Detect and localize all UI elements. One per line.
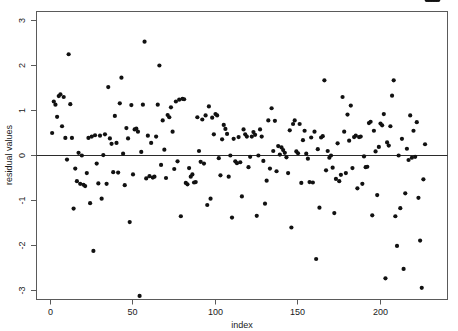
scatter-point bbox=[390, 94, 394, 98]
x-tick-label: 100 bbox=[208, 307, 223, 317]
scatter-point bbox=[53, 103, 57, 107]
scatter-point bbox=[400, 137, 404, 141]
scatter-point bbox=[106, 85, 110, 89]
scatter-point bbox=[85, 171, 89, 175]
scatter-point bbox=[265, 179, 269, 183]
scatter-point bbox=[383, 276, 387, 280]
scatter-point bbox=[139, 150, 143, 154]
scatter-point bbox=[359, 135, 363, 139]
scatter-point bbox=[129, 103, 133, 107]
scatter-point bbox=[190, 172, 194, 176]
scatter-point bbox=[159, 163, 163, 167]
scatter-point bbox=[207, 104, 211, 108]
scatter-point bbox=[121, 152, 125, 156]
scatter-point bbox=[232, 137, 236, 141]
scatter-point bbox=[101, 153, 105, 157]
scatter-point bbox=[138, 294, 142, 298]
scatter-point bbox=[266, 118, 270, 122]
scatter-point bbox=[126, 136, 130, 140]
scatter-point bbox=[416, 196, 420, 200]
scatter-point bbox=[118, 101, 122, 105]
scatter-point bbox=[76, 151, 80, 155]
scatter-point bbox=[103, 132, 107, 136]
scatter-point bbox=[60, 124, 64, 128]
scatter-point bbox=[372, 129, 376, 133]
scatter-point bbox=[377, 145, 381, 149]
scatter-point bbox=[347, 139, 351, 143]
scatter-point bbox=[161, 118, 165, 122]
scatter-point bbox=[317, 206, 321, 210]
x-tick-label: 50 bbox=[127, 307, 137, 317]
scatter-point bbox=[228, 153, 232, 157]
scatter-point bbox=[293, 118, 297, 122]
scatter-point bbox=[142, 40, 146, 44]
scatter-point bbox=[230, 216, 234, 220]
scatter-point bbox=[270, 106, 274, 110]
scatter-point bbox=[204, 113, 208, 117]
scatter-point bbox=[306, 157, 310, 161]
scatter-point bbox=[296, 151, 300, 155]
scatter-point bbox=[268, 166, 272, 170]
y-tick-label: -3 bbox=[17, 286, 27, 294]
scatter-point bbox=[421, 177, 425, 181]
scatter-point bbox=[164, 176, 168, 180]
scatter-point bbox=[299, 181, 303, 185]
scatter-point bbox=[73, 166, 77, 170]
scatter-point bbox=[172, 167, 176, 171]
scatter-point bbox=[218, 173, 222, 177]
scatter-point bbox=[67, 52, 71, 56]
scatter-point bbox=[339, 173, 343, 177]
scatter-point bbox=[58, 92, 62, 96]
scatter-point bbox=[345, 112, 349, 116]
scatter-point bbox=[98, 134, 102, 138]
x-tick-label: 150 bbox=[290, 307, 305, 317]
scatter-point bbox=[260, 135, 264, 139]
scatter-point bbox=[146, 134, 150, 138]
y-tick-label: 0 bbox=[17, 153, 27, 158]
scatter-point bbox=[418, 238, 422, 242]
scatter-point bbox=[362, 154, 366, 158]
scatter-point bbox=[100, 197, 104, 201]
scatter-point bbox=[420, 286, 424, 290]
scatter-point bbox=[227, 175, 231, 179]
scatter-point bbox=[415, 120, 419, 124]
scatter-point bbox=[392, 78, 396, 82]
scatter-point bbox=[397, 153, 401, 157]
scatter-point bbox=[291, 122, 295, 126]
scatter-point bbox=[398, 206, 402, 210]
scatter-point bbox=[411, 129, 415, 133]
scatter-point bbox=[316, 147, 320, 151]
scatter-point bbox=[332, 211, 336, 215]
scatter-point bbox=[395, 244, 399, 248]
scatter-point bbox=[200, 117, 204, 121]
scatter-point bbox=[288, 128, 292, 132]
scatter-point bbox=[205, 203, 209, 207]
scatter-point bbox=[109, 142, 113, 146]
scatter-point bbox=[222, 123, 226, 127]
scatter-point bbox=[263, 202, 267, 206]
scatter-point bbox=[241, 127, 245, 131]
scatter-point bbox=[75, 179, 79, 183]
scatter-point bbox=[350, 166, 354, 170]
scatter-point bbox=[136, 130, 140, 134]
scatter-point bbox=[284, 155, 288, 159]
scatter-point bbox=[131, 172, 135, 176]
plot-background bbox=[0, 0, 458, 331]
scatter-point bbox=[114, 141, 118, 145]
scatter-point bbox=[387, 144, 391, 148]
scatter-point bbox=[331, 166, 335, 170]
scatter-point bbox=[197, 149, 201, 153]
scatter-point bbox=[286, 171, 290, 175]
scatter-point bbox=[185, 182, 189, 186]
scatter-point bbox=[157, 63, 161, 67]
scatter-point bbox=[375, 193, 379, 197]
scatter-point bbox=[298, 122, 302, 126]
scatter-point bbox=[68, 102, 72, 106]
scatter-point bbox=[80, 153, 84, 157]
scatter-point bbox=[423, 142, 427, 146]
scatter-point bbox=[408, 113, 412, 117]
scatter-point bbox=[314, 257, 318, 261]
scatter-point bbox=[337, 179, 341, 183]
scatter-point bbox=[70, 136, 74, 140]
scatter-point bbox=[271, 149, 275, 153]
